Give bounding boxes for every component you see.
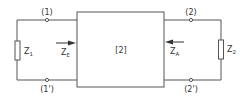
terminal-1-prime-label: (1') [40,85,54,94]
two-port-diagram: (1) (1') (2) (2') [2] Z1 ZE ZA Z2 [0,0,246,98]
terminal-1-label: (1) [41,8,52,17]
z1-resistor-icon [15,41,20,60]
terminal-1-prime-icon [45,78,48,81]
input-arrow-icon [56,41,76,46]
terminal-2-icon [189,18,192,21]
terminal-2-prime-label: (2') [184,85,198,94]
terminal-1-icon [45,18,48,21]
z-input-label: ZE [61,48,70,58]
two-port-label: [2] [115,46,126,55]
z2-label: Z2 [227,45,236,55]
terminal-2-label: (2) [185,8,196,17]
terminal-2-prime-icon [189,78,192,81]
z1-label: Z1 [24,47,33,57]
z-output-label: ZA [170,47,179,57]
output-arrow-icon [165,40,184,45]
z2-resistor-icon [219,40,224,59]
